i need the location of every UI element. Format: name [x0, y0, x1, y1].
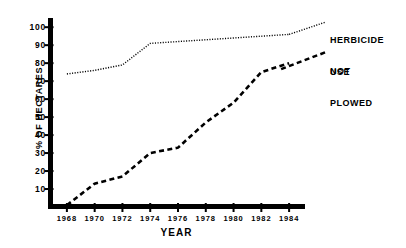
series-line-not-plowed — [67, 63, 289, 205]
x-axis-title: YEAR — [50, 227, 303, 238]
y-tick-label-50: 50 — [20, 112, 46, 122]
y-tick-label-80: 80 — [20, 58, 46, 68]
x-tick-mark — [288, 203, 290, 212]
x-axis-tick-labels: 196819701972197419761978198019821984 — [0, 214, 406, 228]
y-tick-label-20: 20 — [20, 166, 46, 176]
y-tick-label-70: 70 — [20, 76, 46, 86]
y-tick-label-60: 60 — [20, 94, 46, 104]
x-tick-label-1984: 1984 — [269, 214, 309, 223]
chart-figure: % OF HECTARES 102030405060708090100 1968… — [0, 0, 406, 248]
series-line-herbicide-use — [67, 34, 289, 74]
x-tick-mark — [94, 203, 96, 212]
x-tick-mark — [149, 203, 151, 212]
legend-label-notplowed-line2: PLOWED — [330, 98, 373, 109]
x-tick-mark — [177, 203, 179, 212]
y-tick-label-10: 10 — [20, 184, 46, 194]
legend-label-notplowed-line1: NOT — [330, 66, 373, 77]
legend-label-herbicide-line1: HERBICIDE — [330, 35, 384, 46]
x-tick-mark — [233, 203, 235, 212]
y-tick-label-40: 40 — [20, 130, 46, 140]
legend-leader-herbicide — [289, 22, 326, 34]
x-axis-spine — [48, 204, 305, 209]
y-axis-tick-labels: 102030405060708090100 — [12, 0, 46, 248]
legend-item-not-plowed: NOT PLOWED — [330, 45, 373, 129]
x-tick-mark — [260, 203, 262, 212]
x-tick-mark — [121, 203, 123, 212]
legend-leader-not-plowed — [281, 52, 326, 69]
y-tick-label-100: 100 — [20, 22, 46, 32]
y-tick-label-90: 90 — [20, 40, 46, 50]
y-axis-spine — [48, 18, 53, 209]
x-tick-mark — [205, 203, 207, 212]
y-tick-label-30: 30 — [20, 148, 46, 158]
